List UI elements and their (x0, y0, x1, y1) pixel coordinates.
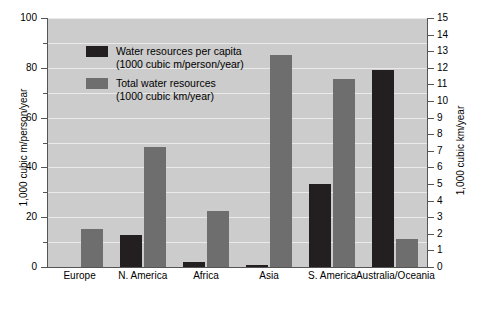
y-axis-right-tick-label: 12 (437, 63, 448, 73)
y-axis-right-tick (428, 84, 434, 85)
legend-item-per-capita: Water resources per capita (1000 cubic m… (86, 45, 244, 70)
bar-per-capita (309, 184, 331, 267)
y-axis-left-title: 1,000 cubic m/person/year (18, 73, 29, 223)
y-axis-right-tick (428, 101, 434, 102)
legend-swatch-black-icon (86, 46, 108, 57)
y-axis-right-tick (428, 68, 434, 69)
y-axis-left-tick (41, 68, 47, 69)
legend-label-line2: (1000 cubic m/person/year) (116, 58, 244, 71)
y-axis-right-tick-label: 8 (437, 129, 443, 139)
chart-container: 020406080100 0123456789101112131415 Euro… (0, 0, 486, 310)
y-axis-right-tick (428, 118, 434, 119)
y-axis-right-tick-label: 11 (437, 79, 447, 89)
y-axis-left-tick (41, 18, 47, 19)
x-axis-tick-label: Australia/Oceania (335, 270, 455, 282)
y-axis-right-tick-label: 10 (437, 96, 448, 106)
bar-total-resources (270, 55, 292, 267)
legend-label-total: Total water resources (1000 cubic km/yea… (116, 77, 216, 102)
y-axis-right-tick-label: 5 (437, 179, 443, 189)
y-axis-right-tick (428, 184, 434, 185)
y-axis-right-tick-label: 13 (437, 46, 448, 56)
y-axis-right-tick-label: 9 (437, 113, 443, 123)
y-axis-left-tick-label: 100 (20, 13, 37, 23)
legend-label-per-capita: Water resources per capita (1000 cubic m… (116, 45, 244, 70)
y-axis-right-tick (428, 51, 434, 52)
bar-per-capita (120, 235, 142, 267)
chart-legend: Water resources per capita (1000 cubic m… (86, 45, 244, 109)
y-axis-left-tick-label: 80 (26, 63, 37, 73)
y-axis-right-tick-label: 14 (437, 30, 448, 40)
y-axis-right-tick (428, 201, 434, 202)
y-axis-right-title: 1,000 cubic km/year (455, 86, 466, 216)
y-axis-left-line (47, 18, 48, 268)
y-axis-right-line (427, 18, 428, 268)
y-axis-right-tick (428, 134, 434, 135)
bar-total-resources (81, 229, 103, 267)
y-axis-left-tick (41, 167, 47, 168)
x-axis-line (47, 267, 428, 268)
legend-item-total: Total water resources (1000 cubic km/yea… (86, 77, 244, 102)
y-axis-right-tick (428, 217, 434, 218)
y-axis-right-tick (428, 151, 434, 152)
y-axis-right-tick-label: 3 (437, 212, 443, 222)
legend-label-line2: (1000 cubic km/year) (116, 90, 216, 103)
y-axis-right-tick (428, 167, 434, 168)
y-axis-right-tick (428, 250, 434, 251)
y-axis-left-minor-tick (43, 192, 47, 193)
y-axis-right-tick (428, 18, 434, 19)
bar-total-resources (396, 239, 418, 267)
y-axis-left-minor-tick (43, 93, 47, 94)
y-axis-right-tick-label: 2 (437, 229, 443, 239)
bar-per-capita (372, 70, 394, 267)
y-axis-right-tick-label: 6 (437, 162, 443, 172)
bar-total-resources (207, 211, 229, 267)
y-axis-left-tick (41, 267, 47, 268)
y-axis-left-minor-tick (43, 43, 47, 44)
legend-label-line1: Water resources per capita (116, 45, 244, 58)
y-axis-left-tick (41, 217, 47, 218)
legend-label-line1: Total water resources (116, 77, 216, 90)
y-axis-right-tick-label: 4 (437, 196, 443, 206)
y-axis-left-tick (41, 118, 47, 119)
y-axis-right-tick-label: 1 (437, 245, 443, 255)
bar-total-resources (144, 147, 166, 267)
y-axis-right-tick-label: 15 (437, 13, 448, 23)
y-axis-right-tick (428, 234, 434, 235)
y-axis-right-tick (428, 35, 434, 36)
y-axis-left-minor-tick (43, 242, 47, 243)
y-axis-right-tick (428, 267, 434, 268)
bar-total-resources (333, 79, 355, 267)
y-axis-right-tick-label: 7 (437, 146, 443, 156)
legend-swatch-gray-icon (86, 78, 108, 89)
y-axis-left-minor-tick (43, 143, 47, 144)
